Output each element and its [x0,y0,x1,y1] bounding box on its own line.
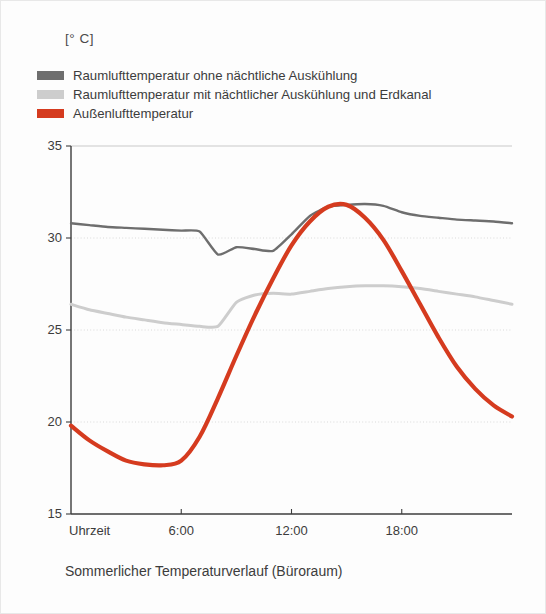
x-axis-tick-label-18-00: 18:00 [362,523,442,538]
chart-caption: Sommerlicher Temperaturverlauf (Büroraum… [65,563,343,579]
chart-page: [° C] Raumlufttemperatur ohne nächtliche… [0,0,546,614]
y-axis-tick-label-30: 30 [32,230,62,245]
x-axis-tick-label-12-00: 12:00 [252,523,332,538]
y-axis-tick-label-35: 35 [32,138,62,153]
series-line-red [71,204,512,466]
y-axis-tick-label-25: 25 [32,322,62,337]
y-axis-tick-label-20: 20 [32,414,62,429]
x-axis-tick-label-Uhrzeit: Uhrzeit [69,523,110,538]
x-axis-tick-label-6-00: 6:00 [141,523,221,538]
y-axis-tick-label-15: 15 [32,506,62,521]
series-line-light-gray [71,286,512,328]
